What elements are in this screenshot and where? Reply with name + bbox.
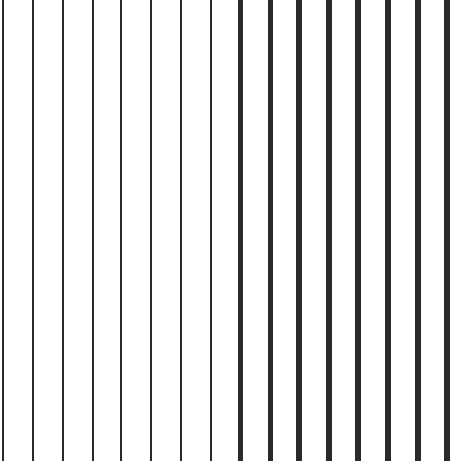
vertical-line bbox=[296, 0, 302, 461]
vertical-line bbox=[92, 0, 94, 461]
vertical-line bbox=[62, 0, 64, 461]
vertical-line bbox=[268, 0, 273, 461]
vertical-line bbox=[2, 0, 4, 461]
vertical-line bbox=[32, 0, 34, 461]
vertical-line bbox=[355, 0, 361, 461]
vertical-line bbox=[444, 0, 450, 461]
vertical-line bbox=[120, 0, 122, 461]
vertical-line bbox=[210, 0, 212, 461]
vertical-line bbox=[180, 0, 182, 461]
vertical-line bbox=[150, 0, 152, 461]
vertical-line bbox=[238, 0, 243, 461]
vertical-line bbox=[326, 0, 332, 461]
vertical-line bbox=[385, 0, 391, 461]
vertical-line bbox=[415, 0, 421, 461]
